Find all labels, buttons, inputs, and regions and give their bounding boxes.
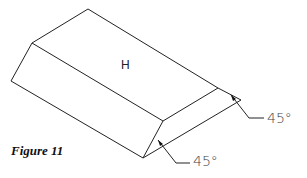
top-right-edge [163,88,218,121]
angle-annotation-bottom: 45° [193,153,218,169]
leader-line-right [231,95,264,118]
angle-annotation-right: 45° [267,110,292,126]
left-chamfer-edge [11,43,32,81]
figure-canvas: H 45° 45° Figure 11 [0,0,307,178]
right-top-edge [218,88,241,100]
leader-line-bottom [158,140,190,163]
right-bottom-edge [143,100,241,158]
face-label-h: H [121,58,130,72]
top-face-back-edges [32,9,218,88]
figure-caption: Figure 11 [11,143,63,159]
top-front-edge [32,43,163,121]
